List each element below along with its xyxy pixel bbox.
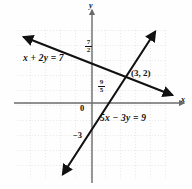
- y-intercept-label-line2: −3: [73, 131, 82, 140]
- coordinate-plot: [0, 0, 192, 189]
- fraction-numerator: 9: [98, 79, 105, 86]
- fraction-numerator: 7: [85, 39, 92, 46]
- equation-label-line2: 5x − 3y = 9: [100, 114, 146, 124]
- intersection-point-label: (3, 2): [131, 69, 151, 78]
- y-intercept-label-line1: 7 2: [85, 39, 92, 55]
- x-intercept-label-line2: 9 5: [98, 79, 105, 95]
- y-axis-label: y: [89, 2, 93, 10]
- fraction-denominator: 5: [98, 87, 105, 94]
- graph-figure: x + 2y = 7 5x − 3y = 9 (3, 2) y x 0 −3 7…: [0, 0, 192, 189]
- equation-label-line1: x + 2y = 7: [23, 54, 64, 64]
- origin-label: 0: [80, 104, 84, 113]
- x-axis-label: x: [181, 96, 185, 104]
- fraction-denominator: 2: [85, 47, 92, 54]
